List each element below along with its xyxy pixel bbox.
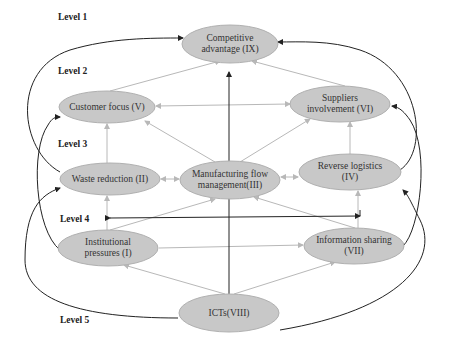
level-label: Level 5: [60, 315, 89, 325]
edge-I-V: [37, 117, 60, 250]
edge-VIII-I: [124, 265, 225, 294]
level-label: Level 2: [58, 66, 87, 76]
edge-III-V: [145, 121, 215, 162]
node-label-I: Institutionalpressures (I): [58, 230, 158, 266]
node-label-III: Manufacturing flowmanagement(III): [180, 161, 280, 199]
node-label-VI: Suppliersinvolvement (VI): [290, 86, 390, 122]
node-label-VII: Information sharing(VII): [304, 228, 404, 264]
edge-V-VI: [156, 104, 290, 106]
edge-VII-III: [254, 197, 355, 228]
level-label: Level 4: [60, 214, 89, 224]
edge-V-IX: [110, 61, 220, 91]
node-label-IX: Competitiveadvantage (IX): [182, 25, 278, 63]
edge-I-III: [110, 199, 215, 230]
node-label-IV: Reverse logistics(IV): [299, 154, 401, 190]
node-label-II: Waste reduction (II): [60, 163, 160, 195]
node-label-V: Customer focus (V): [59, 91, 155, 123]
level-label: Level 3: [58, 139, 87, 149]
edge-VI-IX: [252, 61, 345, 86]
node-label-VIII: ICTs(VIII): [179, 294, 279, 332]
edge-I-VII: [159, 245, 303, 248]
ism-diagram: Competitiveadvantage (IX)Customer focus …: [0, 0, 455, 347]
level-label: Level 1: [58, 12, 87, 22]
edge-VIII-VII: [234, 262, 335, 294]
